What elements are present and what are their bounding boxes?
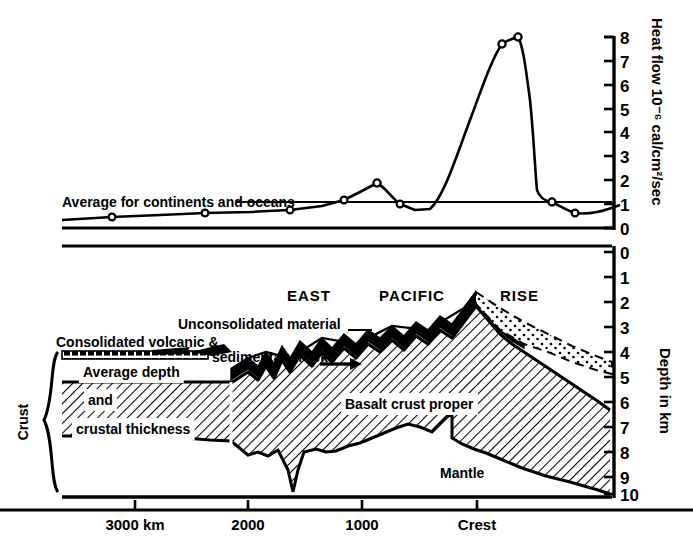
heatflow-tick-3: 3 <box>620 148 629 167</box>
figure-svg: Average for continents and oceans <box>0 0 693 550</box>
depth-tick-0: 0 <box>620 244 629 263</box>
title-word-east: EAST <box>287 287 331 304</box>
x-label-2000: 2000 <box>231 516 264 533</box>
heatflow-tick-5: 5 <box>620 101 629 120</box>
data-point <box>514 33 521 40</box>
depth-tick-3: 3 <box>620 319 629 338</box>
data-point <box>109 214 116 221</box>
title-word-pacific: PACIFIC <box>379 287 445 304</box>
data-point <box>287 207 294 214</box>
x-label-1000: 1000 <box>345 516 378 533</box>
heatflow-tick-4: 4 <box>620 124 630 143</box>
label-consolidated-volcanic: Consolidated volcanic & <box>56 334 219 350</box>
depth-tick-10: 10 <box>620 486 639 505</box>
data-point <box>572 210 579 217</box>
figure-root: Average for continents and oceans <box>0 0 693 550</box>
depth-axis-title: Depth in km <box>657 348 674 434</box>
data-point <box>548 198 555 205</box>
data-point <box>373 179 380 186</box>
heatflow-tick-7: 7 <box>620 53 629 72</box>
depth-tick-7: 7 <box>620 419 629 438</box>
crust-bracket-label: Crust <box>15 403 31 440</box>
data-point <box>202 210 209 217</box>
depth-tick-5: 5 <box>620 369 629 388</box>
label-sedimentary-rocks: sedimentary rocks <box>212 349 336 365</box>
label-and: and <box>88 392 113 408</box>
label-average-depth: Average depth <box>83 364 180 380</box>
average-reference-label: Average for continents and oceans <box>62 194 295 210</box>
data-point <box>498 40 505 47</box>
x-label-crest: Crest <box>458 516 496 533</box>
x-label-3000: 3000 km <box>105 516 164 533</box>
depth-tick-2: 2 <box>620 294 629 313</box>
label-basalt-crust-proper: Basalt crust proper <box>345 396 474 412</box>
heatflow-tick-0: 0 <box>620 220 629 239</box>
depth-tick-6: 6 <box>620 394 629 413</box>
heatflow-axis-title: Heat flow 10⁻⁶ cal/cm²/sec <box>649 18 666 206</box>
label-crustal-thickness: crustal thickness <box>76 421 191 437</box>
heatflow-tick-8: 8 <box>620 29 629 48</box>
label-unconsolidated-material: Unconsolidated material <box>178 316 341 332</box>
depth-tick-8: 8 <box>620 444 629 463</box>
data-point <box>341 197 348 204</box>
heatflow-tick-2: 2 <box>620 172 629 191</box>
data-point <box>397 201 404 208</box>
depth-tick-4: 4 <box>620 344 630 363</box>
heatflow-tick-6: 6 <box>620 77 629 96</box>
heatflow-tick-1: 1 <box>620 196 629 215</box>
title-word-rise: RISE <box>500 287 539 304</box>
label-mantle: Mantle <box>440 465 485 481</box>
depth-tick-1: 1 <box>620 269 629 288</box>
